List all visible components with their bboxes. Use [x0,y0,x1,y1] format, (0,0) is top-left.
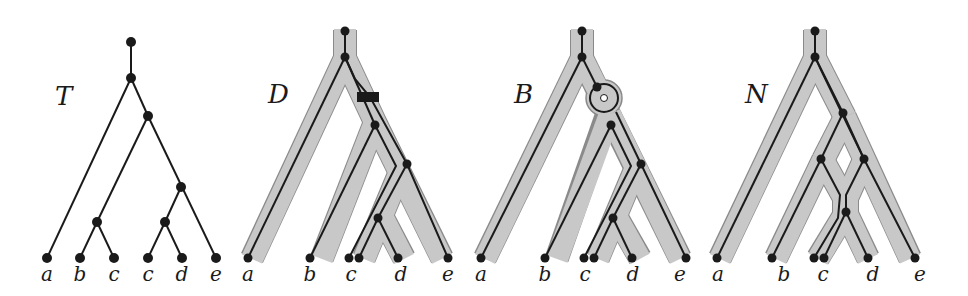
duplication-marker [357,92,379,102]
panel-title-t: T [55,81,74,111]
leaf-label: c [108,262,119,286]
leaf-label: b [778,262,791,286]
leaf-label: b [304,262,317,286]
leaf-label: a [41,262,53,286]
network-tube [720,29,910,259]
diagram-canvas: T a b c c d e [0,0,968,296]
leaf-label: e [674,262,686,286]
leaf-label: e [442,262,454,286]
leaf-label: e [210,262,222,286]
leaf-label: b [74,262,87,286]
leaf-labels-t: a b c c d e [41,262,222,286]
leaf-labels-b: a b c d e [475,262,686,286]
leaf-label: a [475,262,487,286]
leaf-label: c [817,262,828,286]
leaf-label: a [242,262,254,286]
panel-title-b: B [513,79,533,109]
panel-t: T a b c c d e [41,37,222,286]
panel-title-d: D [267,79,289,109]
panel-n: N [712,27,926,287]
leaf-label: c [142,262,153,286]
leaf-label: e [914,262,926,286]
panel-title-n: N [744,79,769,109]
leaf-label: d [867,262,880,286]
leaf-label: c [345,262,356,286]
species-tube [485,29,680,259]
leaf-label: d [395,262,408,286]
panel-d: D [242,27,454,287]
leaf-label: d [627,262,640,286]
leaf-label: c [579,262,590,286]
leaf-label: d [176,262,189,286]
leaf-label: b [539,262,552,286]
leaf-labels-n: a b c d e [712,262,926,286]
leaf-labels-d: a b c d e [242,262,454,286]
panel-b: B [475,27,690,287]
leaf-label: a [712,262,724,286]
